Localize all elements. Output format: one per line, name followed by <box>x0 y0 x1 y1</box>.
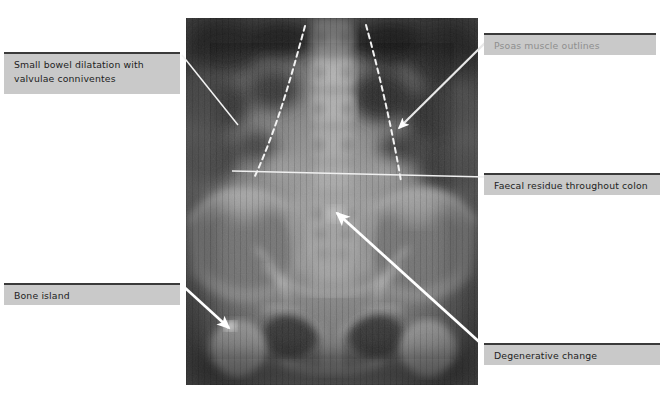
annotation-label-psoas: Psoas muscle outlines <box>484 33 656 55</box>
annotation-label-faecal-residue: Faecal residue throughout colon <box>484 173 660 195</box>
xray-canvas <box>186 18 478 385</box>
annotation-label-small-bowel: Small bowel dilatation with valvulae con… <box>4 52 180 94</box>
annotated-radiograph-figure: Small bowel dilatation with valvulae con… <box>0 0 660 406</box>
annotation-label-bone-island: Bone island <box>4 283 180 305</box>
abdominal-pelvic-xray <box>186 18 478 385</box>
film-grain <box>186 18 478 385</box>
annotation-label-degenerative-change: Degenerative change <box>484 343 660 365</box>
